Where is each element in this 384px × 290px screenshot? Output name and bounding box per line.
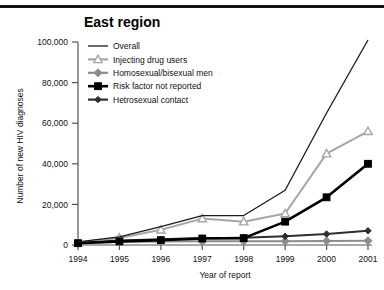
legend-item-label: Hetrosexual contact — [113, 95, 189, 105]
chart-title-group: East region — [84, 14, 160, 30]
series-marker — [365, 160, 372, 167]
series-marker — [364, 237, 372, 245]
x-tick-label: 1996 — [151, 254, 170, 264]
series-marker — [282, 218, 289, 225]
legend-item-label: Injecting drug users — [113, 55, 187, 65]
series-marker — [116, 238, 123, 245]
x-axis-label: Year of report — [199, 270, 251, 280]
series-marker — [240, 235, 247, 242]
chart-legend: OverallInjecting drug usersHomosexual/bi… — [88, 41, 213, 105]
x-tick-label: 2000 — [317, 254, 336, 264]
series-marker — [75, 240, 82, 247]
y-axis-ticks: 020,00040,00060,00080,000100,000 — [37, 37, 78, 250]
chart-figure: East region Number of new HIV diagnoses … — [0, 0, 384, 290]
header-rule — [0, 5, 384, 8]
legend-swatch-marker — [95, 96, 101, 102]
series-marker — [323, 194, 330, 201]
series-marker — [157, 237, 164, 244]
series-line — [78, 131, 368, 242]
y-tick-label: 40,000 — [42, 159, 68, 169]
x-tick-label: 2001 — [359, 254, 378, 264]
x-tick-label: 1997 — [193, 254, 212, 264]
series-marker — [364, 127, 372, 134]
x-axis-label-group: Year of report — [199, 270, 251, 280]
y-tick-label: 100,000 — [37, 37, 68, 47]
x-tick-label: 1998 — [234, 254, 253, 264]
page-title: East region — [84, 14, 160, 30]
series-marker — [365, 228, 371, 234]
y-tick-label: 0 — [63, 240, 68, 250]
y-tick-label: 80,000 — [42, 78, 68, 88]
series-marker — [323, 237, 331, 245]
series-marker — [323, 231, 329, 237]
x-axis-ticks: 19941995199619971998199920002001 — [69, 245, 378, 264]
y-tick-label: 60,000 — [42, 118, 68, 128]
legend-item-label: Risk factor not reported — [113, 81, 202, 91]
series-marker — [199, 235, 206, 242]
x-tick-label: 1999 — [276, 254, 295, 264]
x-tick-label: 1995 — [110, 254, 129, 264]
legend-swatch-marker — [94, 69, 102, 77]
y-axis-label-group: Number of new HIV diagnoses — [15, 88, 25, 203]
hiv-diagnoses-line-chart: East region Number of new HIV diagnoses … — [0, 0, 384, 290]
series-marker — [282, 233, 288, 239]
series-line — [78, 164, 368, 243]
y-tick-label: 20,000 — [42, 200, 68, 210]
legend-item-label: Homosexual/bisexual men — [113, 68, 213, 78]
y-axis-label: Number of new HIV diagnoses — [15, 88, 25, 203]
legend-item-label: Overall — [113, 41, 140, 51]
x-tick-label: 1994 — [69, 254, 88, 264]
legend-swatch-marker — [95, 83, 102, 90]
